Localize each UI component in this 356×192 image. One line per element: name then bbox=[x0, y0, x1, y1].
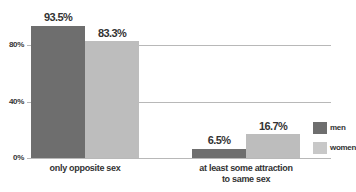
category-label-opposite: only opposite sex bbox=[31, 163, 139, 174]
category-label-same-line2: to same sex bbox=[186, 174, 306, 185]
ytick-0: 0% bbox=[2, 153, 24, 163]
bar-women-same bbox=[246, 134, 300, 158]
category-label-same-line1: at least some attraction bbox=[186, 163, 306, 174]
legend-label-men: men bbox=[330, 123, 346, 133]
category-label-same: at least some attraction to same sex bbox=[186, 163, 306, 185]
legend-swatch-men bbox=[313, 122, 327, 134]
value-women-opposite: 83.3% bbox=[85, 27, 139, 39]
value-women-same: 16.7% bbox=[246, 120, 300, 132]
bar-women-opposite bbox=[85, 41, 139, 158]
ytick-80: 80% bbox=[2, 40, 24, 50]
bar-men-opposite bbox=[31, 26, 85, 158]
gridline-0 bbox=[27, 158, 331, 159]
legend-label-women: women bbox=[330, 143, 356, 153]
legend-swatch-women bbox=[313, 142, 327, 154]
bar-men-same bbox=[192, 149, 246, 158]
ytick-40: 40% bbox=[2, 97, 24, 107]
value-men-same: 6.5% bbox=[192, 134, 246, 146]
value-men-opposite: 93.5% bbox=[31, 11, 85, 23]
